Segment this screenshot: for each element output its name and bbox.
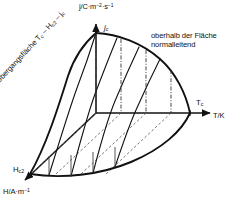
figure-canvas: j/C·m−2·s−1 jc oberhalb der Fläche norma…	[0, 0, 232, 205]
jc-tick-label: jc	[104, 24, 108, 33]
h-axis-label: H/A·m−1	[3, 188, 30, 197]
normal-conducting-note: oberhalb der Fläche normalleitend	[151, 32, 217, 49]
left-boundary-curve	[30, 33, 96, 174]
constant-h-curves-group	[49, 33, 160, 176]
constant-h-curve	[93, 47, 139, 173]
constant-h-curve	[71, 38, 117, 176]
tc-tick-label: Tc	[196, 99, 203, 108]
h-plane-vertical-ticks-group	[49, 147, 115, 176]
j-axis-label: j/C·m−2·s−1	[79, 3, 114, 12]
depth-ray	[81, 113, 146, 174]
t-axis-label: T/K	[213, 112, 225, 121]
constant-h-curve	[49, 33, 96, 175]
lower-boundary-curve	[30, 113, 190, 176]
hc2-tick-label: Hc2	[13, 166, 24, 175]
